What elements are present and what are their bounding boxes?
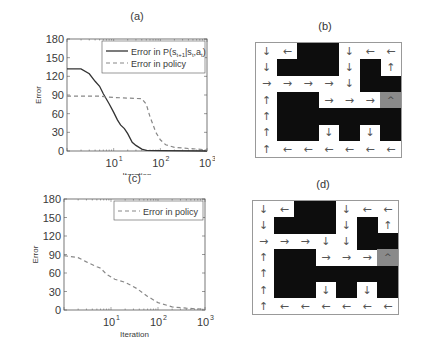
arrow-down-icon: ↓ [336,217,357,234]
arrow-left-icon: ← [357,201,378,218]
gridworld-b: ↓←↓←←↓↓↑→→→→↓↑→→→^↑↑↓↓↑←←←←←← [255,42,402,158]
wall-cell [274,266,295,283]
chart-panel-a: (a)0306090120150180101102103IterationErr… [0,0,215,175]
arrow-left-icon: ← [315,298,336,315]
arrow-down-icon: ↓ [315,282,336,299]
y-axis-label: Error [34,86,43,104]
wall-cell [277,92,298,109]
series-policy-error [64,256,205,310]
wall-cell [294,266,315,283]
y-tick-label: 120 [46,70,64,82]
arrow-right-icon: → [336,249,357,266]
arrow-right-icon: → [294,233,315,250]
arrow-right-icon: → [297,76,318,93]
grid-panel-d: (d) ↓←↓←←↓↓↑→→→↓↓↑→→→^↑↑↓↓↑←←←←←← [215,175,422,351]
arrow-up-icon: ↑ [253,249,274,266]
arrow-down-icon: ↓ [357,282,378,299]
goal-cell: ^ [377,249,398,266]
wall-cell [297,108,318,125]
y-tick-label: 90 [49,249,61,261]
legend: Error in P(st+1|st,at)Error in policy [102,41,206,73]
y-tick-label: 180 [43,193,61,205]
grid-panel-b: (b) ↓←↓←←↓↓↑→→→→↓↑→→→^↑↑↓↓↑←←←←←← [215,0,422,175]
chart-title: (c) [128,172,141,184]
y-tick-label: 150 [46,52,64,64]
arrow-up-icon: ↑ [253,282,274,299]
wall-cell [315,201,336,218]
svg-text:1: 1 [116,314,120,321]
wall-cell [380,108,401,125]
arrow-up-icon: ↑ [256,108,277,125]
arrow-left-icon: ← [274,298,295,315]
x-tick-label: 103 [197,314,214,328]
wall-cell [339,108,360,125]
y-tick-label: 0 [58,145,64,157]
wall-cell [380,124,401,141]
arrow-left-icon: ← [318,141,339,158]
wall-cell [360,76,381,93]
wall-cell [318,59,339,76]
arrow-left-icon: ← [336,298,357,315]
wall-cell [357,233,378,250]
arrow-left-icon: ← [339,141,360,158]
y-tick-label: 120 [43,230,61,242]
chart-title: (a) [130,10,143,22]
series-transition-error [67,69,207,151]
wall-cell [277,108,298,125]
y-tick-label: 90 [52,89,64,101]
wall-cell [336,282,357,299]
arrow-up-icon: ↑ [253,266,274,283]
y-tick-label: 30 [49,286,61,298]
arrow-up-icon: ↑ [256,92,277,109]
wall-cell [294,201,315,218]
arrow-left-icon: ← [274,201,295,218]
y-tick-label: 60 [49,267,61,279]
wall-cell [357,217,378,234]
wall-cell [274,249,295,266]
wall-cell [377,233,398,250]
arrow-left-icon: ← [297,141,318,158]
arrow-left-icon: ← [360,43,381,60]
x-tick-label: 101 [103,314,120,328]
wall-cell [297,59,318,76]
arrow-right-icon: → [318,92,339,109]
arrow-down-icon: ↓ [256,43,277,60]
arrow-up-icon: ↑ [253,298,274,315]
wall-cell [277,59,298,76]
arrow-right-icon: → [315,249,336,266]
wall-cell [377,266,398,283]
arrow-down-icon: ↓ [339,43,360,60]
arrow-down-icon: ↓ [253,201,274,218]
arrow-right-icon: → [360,92,381,109]
legend: Error in policy [114,201,203,220]
x-axis-label: Iteration [120,330,149,339]
y-tick-label: 180 [46,33,64,45]
arrow-left-icon: ← [377,298,398,315]
arrow-left-icon: ← [294,298,315,315]
y-tick-label: 0 [55,304,61,316]
arrow-up-icon: ↑ [256,124,277,141]
arrow-left-icon: ← [360,141,381,158]
arrow-down-icon: ↓ [336,233,357,250]
wall-cell [377,282,398,299]
wall-cell [336,266,357,283]
chart-panel-c: (c)0306090120150180101102103IterationErr… [0,160,215,351]
wall-cell [339,124,360,141]
arrow-down-icon: ↓ [336,201,357,218]
svg-text:10: 10 [197,316,209,328]
arrow-left-icon: ← [277,43,298,60]
svg-text:10: 10 [150,316,162,328]
wall-cell [315,217,336,234]
arrow-left-icon: ← [377,201,398,218]
y-tick-label: 150 [43,212,61,224]
arrow-right-icon: → [318,76,339,93]
wall-cell [357,266,378,283]
arrow-down-icon: ↓ [339,59,360,76]
line-chart-c: (c)0306090120150180101102103IterationErr… [0,160,215,351]
wall-cell [380,76,401,93]
panel-title-d: (d) [303,178,343,190]
wall-cell [297,92,318,109]
wall-cell [315,266,336,283]
wall-cell [294,249,315,266]
x-tick-label: 102 [150,314,167,328]
